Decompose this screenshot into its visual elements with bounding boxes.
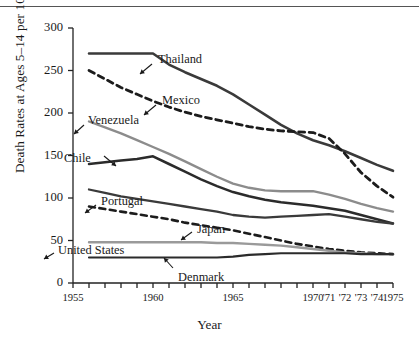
series-label-denmark: Denmark [178,270,224,285]
annotation-arrowhead [181,235,186,240]
y-tick-label: 300 [29,20,63,35]
y-tick-label: 150 [29,148,63,163]
series-line-mexico [89,71,393,198]
series-label-united-states: United States [58,243,124,258]
y-tick-label: 250 [29,63,63,78]
x-tick-label: 1960 [133,292,173,303]
series-label-mexico: Mexico [162,93,200,108]
x-tick-label: 1965 [213,292,253,303]
annotation-arrowhead [85,208,90,213]
x-tick-label: 1955 [53,292,93,303]
series-label-thailand: Thailand [158,52,202,67]
series-label-chile: Chile [64,151,91,166]
series-line-denmark [89,253,393,257]
series-line-japan [89,207,393,255]
chart-figure: Death Rates at Ages 5–14 per 100,000 Yea… [0,0,419,341]
series-label-portugal: Portugal [101,194,143,209]
y-tick-label: 200 [29,105,63,120]
y-tick-label: 100 [29,190,63,205]
x-tick-label: 1975 [373,292,413,303]
y-tick-label: 0 [29,275,63,290]
series-label-japan: Japan [197,222,225,237]
series-label-venezuela: Venezuela [88,113,139,128]
series-group [89,54,393,258]
